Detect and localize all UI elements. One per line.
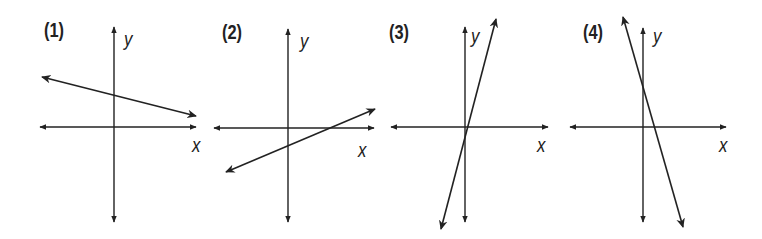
graph-4 — [570, 17, 726, 227]
graph-3-x-axis-label: x — [537, 133, 545, 157]
graph-2 — [214, 29, 375, 222]
graph-3 — [391, 19, 548, 229]
graph-3-label: (3) — [389, 20, 409, 44]
plotted-line — [42, 77, 196, 116]
graph-4-x-axis-label: x — [719, 133, 727, 157]
graph-4-label: (4) — [583, 20, 603, 44]
plotted-line — [441, 19, 496, 229]
graph-2-x-axis-label: x — [358, 138, 366, 162]
graph-1 — [40, 27, 196, 222]
graph-3-y-axis-label: y — [471, 24, 479, 48]
graph-1-y-axis-label: y — [124, 27, 132, 51]
graph-2-y-axis-label: y — [300, 29, 308, 53]
graphs-canvas — [0, 0, 762, 239]
plotted-line — [623, 17, 683, 227]
graph-1-x-axis-label: x — [192, 133, 200, 157]
plotted-line — [226, 109, 375, 172]
graph-1-label: (1) — [44, 18, 64, 42]
graph-4-y-axis-label: y — [653, 24, 661, 48]
graph-2-label: (2) — [222, 20, 242, 44]
